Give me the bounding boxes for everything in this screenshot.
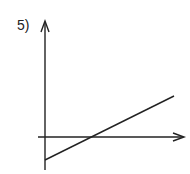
graph-line [45, 96, 174, 160]
graph-diagram [0, 0, 190, 174]
